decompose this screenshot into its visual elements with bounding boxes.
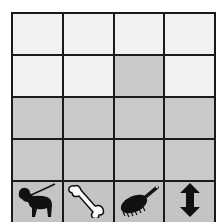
bar-cell-dog-on-leash-level-1 [13,140,62,180]
bar-cell-brush-level-4 [115,14,164,54]
bar-cell-bone-level-2 [64,98,113,138]
bone-icon [66,182,110,222]
brush-icon [117,182,161,222]
bar-cell-up-down-arrow-level-3 [165,56,214,96]
pictograph-bar-chart [11,12,216,222]
bar-cell-brush-level-2 [115,98,164,138]
category-cell-dog-on-leash [13,182,62,222]
category-cell-up-down-arrow [165,182,214,222]
bar-cell-brush-level-1 [115,140,164,180]
bar-cell-bone-level-1 [64,140,113,180]
category-cell-brush [115,182,164,222]
bar-cell-up-down-arrow-level-4 [165,14,214,54]
bar-cell-bone-level-3 [64,56,113,96]
dog-on-leash-icon [15,182,59,222]
bar-cell-bone-level-4 [64,14,113,54]
bar-cell-brush-level-3 [115,56,164,96]
bar-cell-up-down-arrow-level-2 [165,98,214,138]
bar-cell-dog-on-leash-level-4 [13,14,62,54]
up-down-arrow-icon [168,182,212,222]
bar-cell-up-down-arrow-level-1 [165,140,214,180]
bar-cell-dog-on-leash-level-2 [13,98,62,138]
category-cell-bone [64,182,113,222]
bar-cell-dog-on-leash-level-3 [13,56,62,96]
